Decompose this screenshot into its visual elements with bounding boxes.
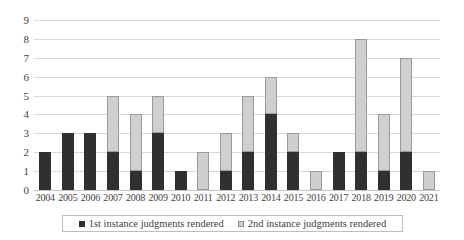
bar-segment-first-instance[interactable] (84, 133, 96, 190)
bar-segment-first-instance[interactable] (333, 152, 345, 190)
legend-entry-second-instance[interactable]: 2nd instance judgments rendered (238, 218, 387, 230)
bar-stack (287, 133, 299, 190)
bar-stack (423, 171, 435, 190)
y-axis-tick-label: 2 (24, 147, 30, 158)
bar-column-2015[interactable] (282, 20, 305, 190)
legend-swatch-icon (79, 221, 85, 227)
x-axis-tick-label-2012: 2012 (215, 192, 238, 204)
legend-entry-first-instance[interactable]: 1st instance judgments rendered (79, 218, 224, 230)
bar-column-2019[interactable] (372, 20, 395, 190)
x-axis-tick-label-2013: 2013 (237, 192, 260, 204)
y-axis-tick-label: 6 (24, 71, 30, 82)
bar-segment-second-instance[interactable] (265, 77, 277, 115)
y-axis-tick-label: 1 (24, 166, 30, 177)
x-axis-tick-label-2009: 2009 (147, 192, 170, 204)
bar-segment-first-instance[interactable] (39, 152, 51, 190)
bar-segment-first-instance[interactable] (175, 171, 187, 190)
y-axis-tick-label: 8 (24, 33, 30, 44)
bar-column-2016[interactable] (305, 20, 328, 190)
bar-column-2010[interactable] (169, 20, 192, 190)
x-axis-tick-label-2011: 2011 (192, 192, 215, 204)
bar-segment-second-instance[interactable] (152, 96, 164, 134)
bar-segment-second-instance[interactable] (378, 114, 390, 171)
bar-column-2005[interactable] (57, 20, 80, 190)
bar-stack (107, 96, 119, 190)
y-axis-tick-label: 9 (24, 15, 30, 26)
x-axis-tick-label-2017: 2017 (327, 192, 350, 204)
x-axis-tick-label-2019: 2019 (372, 192, 395, 204)
legend-label: 2nd instance judgments rendered (248, 218, 387, 230)
bar-stack (152, 96, 164, 190)
x-axis-tick-label-2018: 2018 (350, 192, 373, 204)
bar-column-2020[interactable] (395, 20, 418, 190)
bar-stack (62, 133, 74, 190)
bar-column-2011[interactable] (192, 20, 215, 190)
x-axis-tick-label-2015: 2015 (282, 192, 305, 204)
bar-segment-first-instance[interactable] (355, 152, 367, 190)
bar-column-2017[interactable] (327, 20, 350, 190)
x-axis-tick-label-2014: 2014 (260, 192, 283, 204)
bar-segment-second-instance[interactable] (107, 96, 119, 153)
y-axis-tick-label: 0 (24, 185, 30, 196)
bar-segment-first-instance[interactable] (400, 152, 412, 190)
gridline-0: 0 (34, 190, 440, 191)
bar-segment-second-instance[interactable] (287, 133, 299, 152)
bar-stack (130, 114, 142, 190)
bar-column-2007[interactable] (102, 20, 125, 190)
bar-column-2012[interactable] (215, 20, 238, 190)
bar-stack (175, 171, 187, 190)
y-axis-tick-label: 7 (24, 52, 30, 63)
bar-segment-second-instance[interactable] (423, 171, 435, 190)
bar-stack (242, 96, 254, 190)
bar-column-2014[interactable] (260, 20, 283, 190)
bar-column-2004[interactable] (34, 20, 57, 190)
plot-area: 0123456789 (34, 20, 440, 190)
bar-stack (84, 133, 96, 190)
bar-column-2013[interactable] (237, 20, 260, 190)
x-axis-tick-label-2021: 2021 (418, 192, 441, 204)
bar-stack (220, 133, 232, 190)
bar-segment-first-instance[interactable] (220, 171, 232, 190)
bar-segment-second-instance[interactable] (130, 114, 142, 171)
bar-segment-second-instance[interactable] (197, 152, 209, 190)
bar-segment-first-instance[interactable] (152, 133, 164, 190)
x-axis-tick-label-2016: 2016 (305, 192, 328, 204)
bar-stack (39, 152, 51, 190)
bar-segment-first-instance[interactable] (265, 114, 277, 190)
x-axis-tick-label-2010: 2010 (169, 192, 192, 204)
bar-segment-first-instance[interactable] (378, 171, 390, 190)
bar-stack (333, 152, 345, 190)
bar-stack (400, 58, 412, 190)
y-axis-tick-label: 5 (24, 90, 30, 101)
x-axis-tick-label-2008: 2008 (124, 192, 147, 204)
bar-stack (265, 77, 277, 190)
bar-column-2006[interactable] (79, 20, 102, 190)
x-axis-tick-labels: 2004200520062007200820092010201120122013… (34, 192, 440, 204)
bar-segment-first-instance[interactable] (62, 133, 74, 190)
bar-column-2018[interactable] (350, 20, 373, 190)
bar-column-2008[interactable] (124, 20, 147, 190)
bar-segment-second-instance[interactable] (220, 133, 232, 171)
x-axis-tick-label-2005: 2005 (57, 192, 80, 204)
x-axis-tick-label-2020: 2020 (395, 192, 418, 204)
bars-group (34, 20, 440, 190)
bar-column-2021[interactable] (418, 20, 441, 190)
bar-segment-first-instance[interactable] (242, 152, 254, 190)
bar-segment-first-instance[interactable] (287, 152, 299, 190)
legend-swatch-icon (238, 221, 244, 227)
bar-column-2009[interactable] (147, 20, 170, 190)
bar-segment-second-instance[interactable] (242, 96, 254, 153)
bar-segment-second-instance[interactable] (310, 171, 322, 190)
bar-segment-first-instance[interactable] (130, 171, 142, 190)
bar-segment-second-instance[interactable] (400, 58, 412, 152)
bar-segment-second-instance[interactable] (355, 39, 367, 152)
stacked-bar-chart: 0123456789 20042005200620072008200920102… (0, 0, 464, 240)
chart-legend: 1st instance judgments rendered2nd insta… (62, 215, 403, 232)
y-axis-tick-label: 3 (24, 128, 30, 139)
x-axis-tick-label-2007: 2007 (102, 192, 125, 204)
legend-label: 1st instance judgments rendered (89, 218, 224, 230)
bar-stack (197, 152, 209, 190)
x-axis-tick-label-2004: 2004 (34, 192, 57, 204)
bar-segment-first-instance[interactable] (107, 152, 119, 190)
bar-stack (378, 114, 390, 190)
